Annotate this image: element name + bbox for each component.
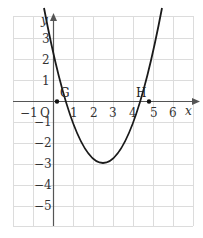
svg-text:−3: −3 xyxy=(34,157,52,171)
svg-text:−2: −2 xyxy=(34,136,52,150)
svg-text:H: H xyxy=(136,86,146,100)
svg-text:−4: −4 xyxy=(34,178,52,192)
svg-text:G: G xyxy=(60,86,70,100)
svg-text:3: 3 xyxy=(109,106,117,120)
svg-text:5: 5 xyxy=(150,106,158,120)
svg-text:2: 2 xyxy=(90,106,98,120)
svg-text:6: 6 xyxy=(169,106,177,120)
svg-text:−1: −1 xyxy=(34,115,52,129)
x-axis-label: x xyxy=(185,104,192,118)
svg-text:1: 1 xyxy=(42,74,50,88)
svg-text:2: 2 xyxy=(42,53,50,67)
parabola-graph: −1 1 2 3 4 5 6 O x y 3 2 1 −1 −2 −3 −4 −… xyxy=(0,0,203,238)
svg-text:−5: −5 xyxy=(34,199,52,213)
x-axis xyxy=(13,98,200,105)
x-axis-arrow-icon xyxy=(192,98,200,105)
